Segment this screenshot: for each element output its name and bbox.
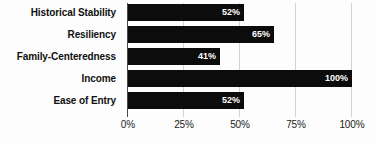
category-label: Resiliency — [68, 26, 116, 43]
bar-value-label: 41% — [198, 48, 216, 65]
x-axis-tick-labels: 0% 25% 50% 75% 100% — [0, 119, 376, 139]
x-tick-label: 100% — [339, 119, 364, 130]
gridline-75 — [295, 3, 296, 117]
x-tick-label: 50% — [230, 119, 250, 130]
category-label: Ease of Entry — [53, 92, 116, 109]
category-label: Historical Stability — [31, 4, 116, 21]
bar-value-label: 52% — [222, 92, 240, 109]
category-axis-labels: Historical Stability Resiliency Family-C… — [0, 0, 122, 117]
x-tick-label: 0% — [121, 119, 135, 130]
bar-family-centeredness: 41% — [128, 48, 220, 65]
bar-resiliency: 65% — [128, 26, 274, 43]
category-label: Family-Centeredness — [17, 48, 116, 65]
gridline-100 — [351, 3, 352, 117]
bar-value-label: 65% — [252, 26, 270, 43]
bar-value-label: 100% — [325, 70, 348, 87]
x-tick-label: 25% — [174, 119, 194, 130]
plot-area: 52% 65% 41% 100% 52% — [127, 3, 352, 117]
bar-ease-of-entry: 52% — [128, 92, 244, 109]
category-label: Income — [82, 70, 116, 87]
bar-income: 100% — [128, 70, 352, 87]
bar-value-label: 52% — [222, 4, 240, 21]
x-tick-label: 75% — [286, 119, 306, 130]
bar-historical-stability: 52% — [128, 4, 244, 21]
bar-chart: Historical Stability Resiliency Family-C… — [0, 0, 376, 144]
